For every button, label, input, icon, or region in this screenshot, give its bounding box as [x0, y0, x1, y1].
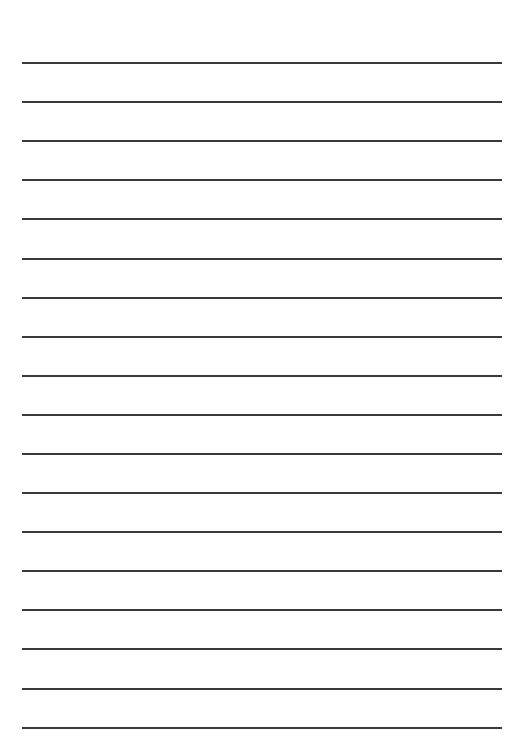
ruled-line: [22, 570, 502, 572]
ruled-line: [22, 492, 502, 494]
ruled-line: [22, 62, 502, 64]
ruled-line: [22, 414, 502, 416]
ruled-line: [22, 140, 502, 142]
ruled-line: [22, 727, 502, 729]
ruled-line: [22, 336, 502, 338]
ruled-line: [22, 609, 502, 611]
ruled-line: [22, 179, 502, 181]
ruled-line: [22, 375, 502, 377]
ruled-line: [22, 453, 502, 455]
ruled-line: [22, 688, 502, 690]
ruled-line: [22, 297, 502, 299]
ruled-line: [22, 218, 502, 220]
ruled-line: [22, 648, 502, 650]
lined-paper-page: [0, 0, 521, 756]
ruled-line: [22, 258, 502, 260]
ruled-line: [22, 101, 502, 103]
ruled-line: [22, 531, 502, 533]
